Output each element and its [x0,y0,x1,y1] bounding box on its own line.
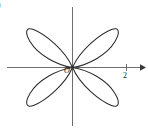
x-axis-arrowhead-icon [140,64,146,70]
figure-corner-marker: ) [0,0,1,10]
x-tick-label-2: 2 [123,72,127,80]
polar-rose-figure: ) O 2 [0,0,148,128]
rose-petal-lower-right [73,68,119,107]
rose-petal-upper-left [27,29,73,68]
rose-petal-upper-right [73,29,119,68]
origin-label: O [64,67,70,75]
plot-canvas [0,0,148,128]
